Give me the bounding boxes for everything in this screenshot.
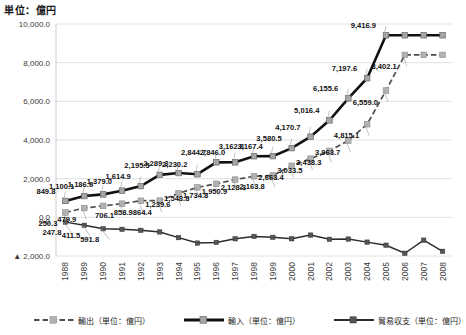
x-axis-tick-label: 1995 (192, 262, 202, 281)
data-point-marker (101, 227, 105, 231)
x-axis-tick: 2004 (362, 262, 372, 281)
y-axis-tick-label: 8,000.0 (23, 59, 50, 68)
x-axis-tick-label: 2007 (419, 262, 429, 281)
y-axis-tick-label: 10,000.0 (19, 20, 51, 29)
x-axis-tick-label: 2008 (438, 262, 448, 281)
data-label: 858.9 (114, 208, 133, 217)
data-point-marker (214, 240, 218, 244)
legend-export[interactable]: 輸出（単位：億円） (34, 315, 150, 326)
data-point-marker (158, 230, 162, 234)
x-axis-tick: 1995 (192, 262, 202, 281)
x-axis-tick-label: 1996 (211, 262, 221, 281)
data-label: 3,438.3 (296, 158, 321, 167)
legend-import-label: 輸入（単位：億円） (228, 315, 300, 326)
data-label: 247.8 (42, 228, 61, 237)
data-point-marker (384, 243, 388, 247)
y-axis-tick-label: ▲ 2,000.0 (13, 252, 50, 261)
y-axis-tick-label: 6,000.0 (23, 97, 50, 106)
x-axis-tick-label: 2002 (324, 262, 334, 281)
x-axis-tick: 1990 (98, 262, 108, 281)
data-point-marker (100, 203, 106, 209)
x-axis-tick: 2008 (438, 262, 448, 281)
data-point-marker (440, 52, 446, 58)
data-point-marker (120, 227, 124, 231)
x-axis-tick: 2007 (419, 262, 429, 281)
data-point-marker (346, 237, 350, 241)
x-axis-tick-label: 1998 (249, 262, 259, 281)
legend-balance-swatch (334, 315, 374, 325)
zero-annotation: 0.0 (39, 217, 51, 226)
x-axis-tick-label: 1989 (79, 262, 89, 281)
x-axis-tick: 2001 (306, 262, 316, 281)
line-chart: 10,000.08,000.06,000.04,000.02,000.00.0▲… (0, 16, 458, 281)
y-axis-tick-label: 2,000.0 (23, 175, 50, 184)
data-label: 1,614.9 (106, 172, 131, 181)
data-label: 2,163.8 (240, 182, 265, 191)
x-axis-tick: 2000 (287, 262, 297, 281)
data-label: 4,170.7 (275, 123, 300, 132)
x-axis-tick-label: 1990 (98, 262, 108, 281)
x-axis-tick: 1993 (155, 262, 165, 281)
x-axis-tick: 2003 (343, 262, 353, 281)
data-point-marker (82, 223, 86, 227)
chart-plot-area: 10,000.08,000.06,000.04,000.02,000.00.0▲… (0, 16, 458, 281)
x-axis-tick: 1992 (136, 262, 146, 281)
data-point-marker (252, 234, 256, 238)
x-axis-tick: 1998 (249, 262, 259, 281)
data-label: 411.5 (62, 231, 81, 240)
data-point-marker (271, 235, 275, 239)
data-point-marker (440, 32, 446, 38)
x-axis-tick-label: 1988 (60, 262, 70, 281)
data-label: 8,402.1 (372, 62, 398, 71)
data-label: 5,016.4 (294, 106, 320, 115)
data-label: 706.1 (95, 211, 115, 220)
data-label: 7,197.6 (332, 64, 357, 73)
x-axis-tick: 1996 (211, 262, 221, 281)
data-point-marker (176, 235, 180, 239)
legend-balance-label: 貿易収支（単位：億円） (378, 315, 466, 326)
data-label: 6,155.6 (313, 84, 338, 93)
x-axis-tick-label: 1992 (136, 262, 146, 281)
data-point-marker (327, 237, 331, 241)
legend-balance[interactable]: 貿易収支（単位：億円） (334, 315, 466, 326)
data-label: 3,167.4 (238, 142, 264, 151)
legend-import[interactable]: 輸入（単位：億円） (184, 315, 300, 326)
x-axis-tick: 1997 (230, 262, 240, 281)
data-label: 2,230.2 (162, 160, 187, 169)
data-point-marker (233, 237, 237, 241)
data-point-marker (195, 241, 199, 245)
x-axis-tick-label: 2000 (287, 262, 297, 281)
data-point-marker (440, 249, 444, 253)
data-point-marker (421, 32, 427, 38)
data-label: 479.9 (57, 215, 76, 224)
data-point-marker (421, 52, 427, 58)
chart-legend: 輸出（単位：億円） 輸入（単位：億円） 貿易収支（単位：億円） (0, 309, 458, 331)
data-label: 3,580.5 (256, 134, 282, 143)
data-label: 9,416.9 (351, 21, 376, 30)
data-point-marker (365, 240, 369, 244)
x-axis-tick-label: 2004 (362, 262, 372, 281)
data-point-marker (402, 32, 408, 38)
legend-export-label: 輸出（単位：億円） (78, 315, 150, 326)
data-point-marker (290, 237, 294, 241)
x-axis-tick-label: 2006 (400, 262, 410, 281)
x-axis-tick: 2002 (324, 262, 334, 281)
data-label: 591.8 (80, 235, 99, 244)
unit-title: 単位：億円 (4, 2, 57, 17)
data-label: 6,559.0 (353, 98, 378, 107)
x-axis-tick-label: 1993 (155, 262, 165, 281)
data-label: 3,963.7 (315, 148, 340, 157)
x-axis-tick: 2005 (381, 262, 391, 281)
x-axis-tick: 2006 (400, 262, 410, 281)
x-axis-tick-label: 1999 (268, 262, 278, 281)
x-axis-tick-label: 1991 (117, 262, 127, 281)
data-point-marker (403, 251, 407, 255)
x-axis-tick-label: 2005 (381, 262, 391, 281)
legend-import-swatch (184, 315, 224, 325)
x-axis-tick-label: 2001 (306, 262, 316, 281)
data-point-marker (422, 238, 426, 242)
x-axis-tick: 1999 (268, 262, 278, 281)
data-point-marker (139, 228, 143, 232)
data-point-marker (308, 233, 312, 237)
